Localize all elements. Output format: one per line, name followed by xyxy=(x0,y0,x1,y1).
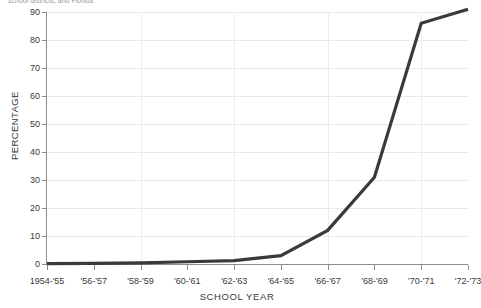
plot-area xyxy=(47,12,468,264)
x-axis-line xyxy=(47,264,468,265)
x-tick-label: '66-'67 xyxy=(314,276,340,287)
x-tick-mark xyxy=(281,265,282,270)
y-tick-label-wrap: 50 xyxy=(0,120,40,129)
y-tick-mark xyxy=(42,68,47,69)
x-tick-mark xyxy=(328,265,329,270)
y-tick-mark xyxy=(42,40,47,41)
gridline-horizontal xyxy=(47,124,468,125)
y-tick-label-wrap: 0 xyxy=(0,260,40,269)
x-tick-label: '70-'71 xyxy=(408,276,434,287)
x-tick-mark xyxy=(187,265,188,270)
x-tick-mark xyxy=(94,265,95,270)
y-tick-mark xyxy=(42,208,47,209)
gridline-vertical xyxy=(328,12,329,264)
y-tick-label-wrap: 60 xyxy=(0,92,40,101)
gridline-vertical xyxy=(234,12,235,264)
y-tick-mark xyxy=(42,96,47,97)
y-tick-label: 80 xyxy=(6,36,40,45)
x-tick-label: '64-'65 xyxy=(268,276,294,287)
y-tick-mark xyxy=(42,152,47,153)
gridline-horizontal xyxy=(47,68,468,69)
y-tick-label: 20 xyxy=(6,204,40,213)
y-tick-label-wrap: 70 xyxy=(0,64,40,73)
gridline-horizontal xyxy=(47,96,468,97)
gridline-horizontal xyxy=(47,152,468,153)
y-tick-label: 10 xyxy=(6,232,40,241)
y-axis-title: PERCENTAGE xyxy=(9,71,20,181)
x-tick-label: 1954-'55 xyxy=(30,276,65,287)
y-tick-label-wrap: 80 xyxy=(0,36,40,45)
x-tick-label: '68-'69 xyxy=(361,276,387,287)
x-tick-mark xyxy=(141,265,142,270)
x-tick-label: '62-'63 xyxy=(221,276,247,287)
x-tick-mark xyxy=(234,265,235,270)
y-tick-mark xyxy=(42,124,47,125)
y-tick-label-wrap: 90 xyxy=(0,8,40,17)
gridline-vertical xyxy=(141,12,142,264)
x-tick-label: '72-'73 xyxy=(455,276,481,287)
y-tick-mark xyxy=(42,12,47,13)
x-tick-label: '58-'59 xyxy=(127,276,153,287)
gridline-horizontal xyxy=(47,40,468,41)
y-tick-label-wrap: 10 xyxy=(0,232,40,241)
x-tick-mark xyxy=(47,265,48,270)
gridline-horizontal xyxy=(47,180,468,181)
gridline-vertical xyxy=(421,12,422,264)
y-tick-label-wrap: 30 xyxy=(0,176,40,185)
x-tick-label: '56-'57 xyxy=(81,276,107,287)
y-tick-label-wrap: 40 xyxy=(0,148,40,157)
y-tick-label: 90 xyxy=(6,8,40,17)
x-axis-title: SCHOOL YEAR xyxy=(0,291,474,302)
y-tick-label: 0 xyxy=(6,260,40,269)
x-tick-mark xyxy=(421,265,422,270)
y-tick-mark xyxy=(42,180,47,181)
y-tick-label-wrap: 20 xyxy=(0,204,40,213)
gridline-horizontal xyxy=(47,208,468,209)
gridline-horizontal xyxy=(47,12,468,13)
y-tick-mark xyxy=(42,236,47,237)
x-tick-mark xyxy=(468,265,469,270)
gridline-horizontal xyxy=(47,236,468,237)
x-tick-label: '60-'61 xyxy=(174,276,200,287)
x-tick-mark xyxy=(374,265,375,270)
